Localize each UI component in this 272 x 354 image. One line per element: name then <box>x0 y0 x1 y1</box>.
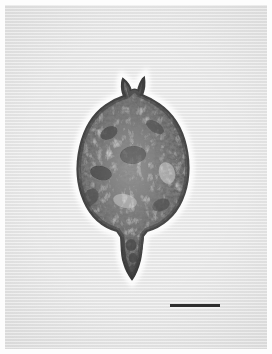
scale-bar <box>170 304 220 307</box>
micrograph-figure <box>0 0 272 354</box>
specimen-layer <box>5 5 267 349</box>
specimen-illustration <box>5 5 267 349</box>
micrograph-panel <box>5 5 267 349</box>
